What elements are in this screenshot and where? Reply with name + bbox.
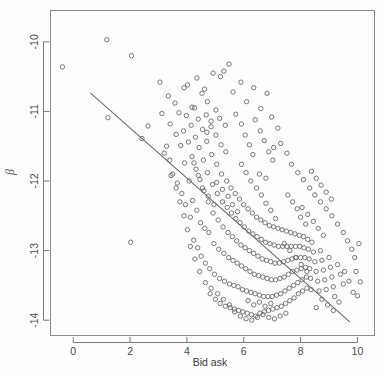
y-axis-tick-label: -13 (28, 243, 40, 258)
x-axis-tick-label: 10 (352, 345, 364, 357)
y-axis-title: β (3, 169, 17, 176)
x-axis-tick-label: 0 (70, 345, 76, 357)
y-axis-tick-label: -14 (28, 312, 40, 327)
x-axis-tick-label: 2 (127, 345, 133, 357)
scatter-plot-figure: 0246810 -10-11-12-13-14 Bid ask β (0, 0, 386, 376)
y-axis-tick-label: -10 (28, 34, 40, 49)
plot-background (0, 0, 386, 376)
y-axis-tick-label: -11 (28, 104, 40, 119)
x-axis-tick-label: 8 (298, 345, 304, 357)
plot-canvas: 0246810 -10-11-12-13-14 Bid ask β (0, 0, 386, 376)
x-axis-tick-label: 4 (184, 345, 190, 357)
y-axis-tick-label: -12 (28, 173, 40, 188)
x-axis-tick-label: 6 (241, 345, 247, 357)
x-axis-title: Bid ask (193, 356, 228, 368)
